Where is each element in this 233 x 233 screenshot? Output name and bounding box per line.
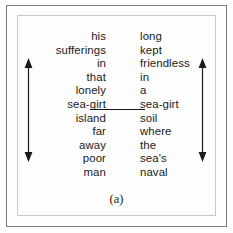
word-item: lonely — [38, 84, 106, 98]
word-item: in — [140, 71, 208, 85]
word-item: in — [38, 57, 106, 71]
word-item: sea's — [140, 152, 208, 166]
word-item: a — [140, 84, 208, 98]
word-item: sufferings — [38, 44, 106, 58]
word-item: friendless — [140, 57, 208, 71]
word-item: his — [38, 30, 106, 44]
word-item: long — [140, 30, 208, 44]
word-item: that — [38, 71, 106, 85]
figure-caption: (a) — [0, 192, 233, 207]
word-item: soil — [140, 112, 208, 126]
word-item: man — [38, 166, 106, 180]
word-item: far — [38, 125, 106, 139]
word-item: island — [38, 112, 106, 126]
word-column-left: his sufferings in that lonely sea-girt i… — [38, 30, 106, 180]
figure-container: his sufferings in that lonely sea-girt i… — [0, 0, 233, 233]
word-item-sea-girt-right: sea-girt — [140, 98, 208, 112]
word-item: kept — [140, 44, 208, 58]
word-columns: his sufferings in that lonely sea-girt i… — [0, 30, 233, 182]
word-item: where — [140, 125, 208, 139]
word-column-right: long kept friendless in a sea-girt soil … — [140, 30, 208, 180]
word-item: away — [38, 139, 106, 153]
word-item: poor — [38, 152, 106, 166]
sea-girt-connector-line — [90, 109, 145, 110]
word-item: the — [140, 139, 208, 153]
word-item: naval — [140, 166, 208, 180]
